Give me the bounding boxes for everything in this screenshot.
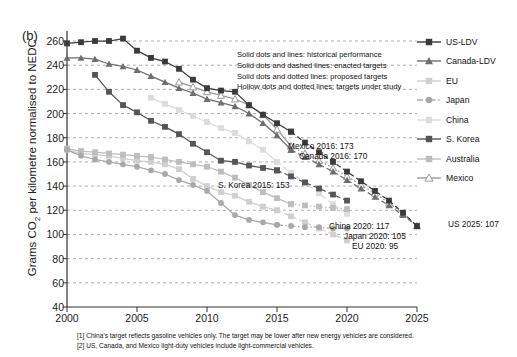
data-marker: [288, 201, 294, 207]
data-marker: [302, 180, 308, 186]
data-marker: [120, 102, 126, 108]
data-marker: [232, 159, 238, 165]
series-style-notes: Solid dots and lines: historical perform…: [237, 50, 401, 93]
data-marker: [204, 164, 210, 170]
legend-marker-icon: [416, 114, 442, 126]
data-marker: [302, 224, 308, 230]
data-marker: [134, 164, 140, 170]
data-annotation: Mexico 2016: 173: [288, 141, 354, 151]
data-marker: [204, 96, 211, 102]
data-marker: [190, 141, 196, 147]
data-marker: [78, 39, 84, 45]
data-marker: [106, 159, 112, 165]
data-marker: [260, 165, 266, 171]
footnote-2: [2] US, Canada, and Mexico light-duty ve…: [77, 342, 314, 349]
data-marker: [302, 203, 308, 209]
data-marker: [274, 120, 280, 126]
legend-item-mexico[interactable]: Mexico: [416, 169, 516, 189]
legend-item-usldv[interactable]: US-LDV: [416, 32, 516, 52]
data-marker: [148, 167, 154, 173]
data-marker: [176, 79, 183, 85]
data-marker: [176, 166, 182, 172]
data-marker: [78, 153, 84, 159]
style-note: Solid dots and dotted lines: proposed ta…: [237, 72, 401, 83]
legend-item-canadaldv[interactable]: Canada-LDV: [416, 52, 516, 72]
footnote-1: [1] China's target reflects gasoline veh…: [77, 332, 414, 339]
data-marker: [204, 188, 210, 194]
data-marker: [148, 118, 154, 124]
legend-item-skorea[interactable]: S. Korea: [416, 130, 516, 150]
data-marker: [92, 157, 98, 163]
legend-item-japan[interactable]: Japan: [416, 91, 516, 111]
data-marker: [288, 174, 294, 180]
data-marker: [260, 189, 266, 195]
legend-marker-icon: [416, 55, 442, 67]
data-marker: [134, 153, 140, 159]
data-marker: [218, 158, 224, 164]
data-marker: [232, 130, 238, 136]
data-marker: [288, 129, 294, 135]
data-marker: [274, 207, 280, 213]
data-marker: [106, 151, 112, 157]
data-annotation: S. Korea 2015: 153: [218, 180, 290, 190]
data-marker: [190, 182, 196, 188]
data-marker: [92, 149, 98, 155]
data-marker: [400, 210, 406, 216]
data-marker: [330, 205, 336, 211]
data-marker: [246, 217, 252, 223]
data-marker: [246, 110, 253, 116]
data-marker: [176, 177, 182, 183]
data-marker: [134, 109, 140, 115]
data-marker: [162, 59, 168, 65]
legend-label: China: [442, 115, 468, 125]
data-annotation: Japan 2020: 105: [344, 231, 406, 241]
data-marker: [190, 113, 196, 119]
data-marker: [274, 222, 280, 228]
data-marker: [330, 192, 336, 198]
data-marker: [330, 232, 336, 238]
style-note: Solid dots and lines: historical perform…: [237, 50, 401, 61]
data-marker: [190, 161, 196, 167]
legend-item-australia[interactable]: Australia: [416, 149, 516, 169]
legend-marker-icon: [416, 153, 442, 165]
data-marker: [260, 147, 266, 153]
data-marker: [344, 206, 350, 212]
data-marker: [120, 152, 126, 158]
data-marker: [162, 101, 168, 107]
data-annotation: China 2020: 117: [329, 221, 389, 231]
series-line-australia: [67, 149, 291, 205]
data-marker: [260, 120, 267, 126]
data-marker: [246, 199, 252, 205]
data-annotation: EU 2020: 95: [352, 241, 398, 251]
data-marker: [288, 213, 294, 219]
data-marker: [106, 38, 112, 44]
data-marker: [176, 159, 182, 165]
data-annotation: US 2025: 107: [448, 219, 499, 229]
data-marker: [246, 138, 252, 144]
data-marker: [204, 149, 210, 155]
legend-label: S. Korea: [442, 134, 479, 144]
data-marker: [92, 72, 98, 78]
data-marker: [176, 85, 183, 91]
data-marker: [162, 124, 168, 130]
data-marker: [358, 178, 364, 184]
data-marker: [246, 163, 252, 169]
data-marker: [274, 167, 280, 173]
data-marker: [232, 193, 238, 199]
data-marker: [106, 89, 112, 95]
data-marker: [148, 95, 154, 101]
legend-item-eu[interactable]: EU: [416, 71, 516, 91]
data-marker: [218, 125, 224, 131]
legend-marker-icon: [416, 133, 442, 145]
data-marker: [386, 198, 392, 204]
data-marker: [148, 73, 155, 79]
data-marker: [316, 224, 322, 230]
data-marker: [204, 85, 210, 91]
data-marker: [260, 219, 266, 225]
data-marker: [372, 188, 378, 194]
data-marker: [162, 157, 168, 163]
data-annotation: Canada 2016: 170: [299, 151, 367, 161]
data-marker: [260, 204, 266, 210]
style-note: Hollow dots and dotted lines: targets un…: [237, 82, 401, 93]
legend-item-china[interactable]: China: [416, 110, 516, 130]
